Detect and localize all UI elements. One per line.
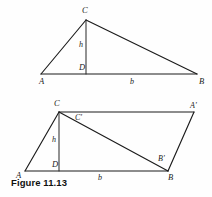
top-triangle-group [41,20,197,74]
base-label-top: b [130,77,134,86]
bottom-parallelogram-group [25,112,194,171]
vertex-label-C-bottom: C [54,98,60,108]
height-label-top: h [79,40,83,49]
figure-caption: Figure 11.13 [11,177,67,188]
vertex-label-B-prime-bottom: B' [158,154,165,163]
vertex-label-A-top: A [38,76,45,86]
segment-B-Aprime-bottom [168,112,194,171]
vertex-label-B-top: B [199,76,204,86]
vertex-label-A-prime-bottom: A' [189,101,197,110]
geometry-figure: C A B D h b C C' A' B' A B D h b [0,0,212,197]
vertex-label-D-bottom: D [51,159,59,169]
vertex-label-C-top: C [82,5,88,15]
figure-container: C A B D h b C C' A' B' A B D h b Fig [0,0,212,197]
segment-C-B-top [86,20,197,74]
vertex-label-B-bottom: B [168,172,173,182]
height-label-bottom: h [52,135,56,144]
vertex-label-C-prime-bottom: C' [75,113,82,122]
base-label-bottom: b [98,173,102,182]
vertex-label-D-top: D [78,62,86,72]
